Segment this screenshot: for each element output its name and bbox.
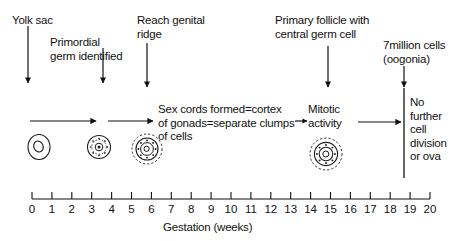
cell-primordial-germ-cell xyxy=(22,130,56,168)
axis-tick-label: 9 xyxy=(201,203,221,215)
axis-tick-label: 8 xyxy=(181,203,201,215)
axis-tick-label: 18 xyxy=(380,203,400,215)
axis-ticks xyxy=(32,192,430,199)
axis-tick-label: 0 xyxy=(22,203,42,215)
cell-oogonium-cluster xyxy=(128,130,166,172)
axis-tick-label: 15 xyxy=(321,203,341,215)
axis-tick-label: 12 xyxy=(261,203,281,215)
axis-tick-label: 17 xyxy=(360,203,380,215)
callout-reach-genital-ridge: Reach genital ridge xyxy=(137,14,205,41)
axis-tick-label: 10 xyxy=(221,203,241,215)
axis-tick-label: 2 xyxy=(62,203,82,215)
axis-tick-label: 16 xyxy=(340,203,360,215)
cell-germ-cell-with-granulosa xyxy=(83,131,115,167)
axis-tick-label: 14 xyxy=(301,203,321,215)
axis-title: Gestation (weeks) xyxy=(163,221,252,233)
stage-mitotic-activity: Mitotic activity xyxy=(308,103,342,130)
stage-no-further-division: No further cell division or ova xyxy=(410,96,447,164)
axis-tick-label: 4 xyxy=(102,203,122,215)
axis-tick-label: 6 xyxy=(141,203,161,215)
callout-primary-follicle: Primary follicle with central germ cell xyxy=(275,14,369,41)
callout-yolk-sac: Yolk sac xyxy=(12,14,53,28)
axis-tick-label: 20 xyxy=(420,203,440,215)
axis-tick-label: 19 xyxy=(400,203,420,215)
axis-tick-label: 11 xyxy=(241,203,261,215)
axis-tick-label: 5 xyxy=(122,203,142,215)
axis-tick-label: 13 xyxy=(281,203,301,215)
callout-primordial-germ-identified: Primordial germ identified xyxy=(50,36,122,63)
cell-primary-follicle xyxy=(306,134,346,178)
figure-canvas: Yolk sac Primordial germ identified Reac… xyxy=(0,0,470,241)
stage-sex-cords: Sex cords formed=cortex of gonads=separa… xyxy=(158,103,295,144)
axis-tick-label: 1 xyxy=(42,203,62,215)
axis-tick-label: 7 xyxy=(161,203,181,215)
callout-seven-million-cells: 7million cells (oogonia) xyxy=(383,39,445,66)
axis-tick-label: 3 xyxy=(82,203,102,215)
